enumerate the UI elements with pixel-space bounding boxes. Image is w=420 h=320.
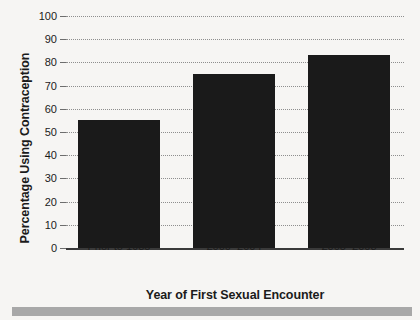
y-axis-title: Percentage Using Contraception: [14, 14, 36, 282]
x-axis-tick-label: 2005–2008: [289, 240, 409, 252]
x-axis-tick-label: 2000–2004: [174, 240, 294, 252]
y-axis-tick-label: 10: [45, 219, 57, 231]
y-axis-tick-label: 30: [45, 172, 57, 184]
x-axis-title: Year of First Sexual Encounter: [66, 288, 404, 302]
plot-area: 0102030405060708090100: [66, 16, 404, 248]
bar: [78, 120, 160, 248]
y-axis-tick-label: 100: [39, 10, 57, 22]
footer-strip: [12, 307, 412, 316]
x-axis-tick-label: Prior to 1985: [59, 240, 179, 252]
y-axis-tick-label: 60: [45, 103, 57, 115]
y-axis-tick-label: 40: [45, 149, 57, 161]
y-axis-tick-label: 90: [45, 33, 57, 45]
y-axis-tick-label: 70: [45, 80, 57, 92]
chart-figure: Percentage Using Contraception 010203040…: [0, 0, 420, 320]
bar: [308, 55, 390, 248]
y-axis-tick-label: 0: [51, 242, 57, 254]
y-axis-tick-label: 20: [45, 196, 57, 208]
y-axis-tick-label: 80: [45, 56, 57, 68]
bar-series: [66, 16, 404, 248]
y-axis-tick-label: 50: [45, 126, 57, 138]
bar: [193, 74, 275, 248]
